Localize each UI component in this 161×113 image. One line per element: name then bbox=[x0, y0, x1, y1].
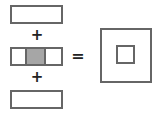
bottom-rectangle bbox=[10, 90, 63, 109]
middle-rectangle bbox=[10, 47, 63, 66]
middle-shaded-cell bbox=[27, 49, 46, 64]
top-rectangle bbox=[10, 5, 63, 24]
plus-sign-2: + bbox=[30, 70, 44, 85]
plus-sign-1: + bbox=[30, 28, 44, 43]
equals-sign: = bbox=[71, 48, 85, 64]
middle-left-cell bbox=[12, 49, 27, 64]
inner-square bbox=[116, 45, 135, 64]
middle-right-cell bbox=[46, 49, 61, 64]
